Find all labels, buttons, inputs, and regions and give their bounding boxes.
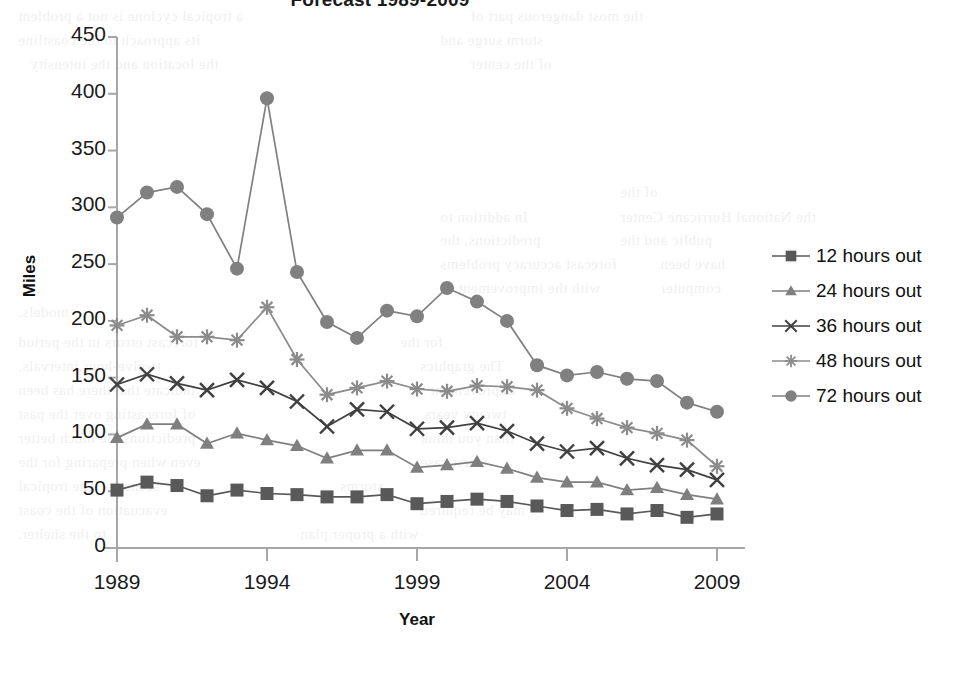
legend-label: 48 hours out (812, 350, 922, 372)
chart-legend: 12 hours out24 hours out36 hours out48 h… (770, 238, 971, 413)
y-tick-label: 350 (38, 136, 106, 160)
x-axis-title: Year (117, 610, 717, 630)
y-tick-label: 300 (38, 192, 106, 216)
y-tick-label: 50 (38, 476, 106, 500)
line-chart-svg (0, 0, 760, 648)
x-tick-label: 2009 (657, 570, 777, 594)
legend-marker-x-icon (770, 314, 812, 338)
legend-item[interactable]: 12 hours out (770, 238, 971, 273)
plot-area: Miles Year 050100150200250300350400450 1… (0, 0, 760, 648)
y-tick-label: 100 (38, 419, 106, 443)
x-tick-label: 1999 (357, 570, 477, 594)
x-tick-label: 2004 (507, 570, 627, 594)
legend-label: 36 hours out (812, 315, 922, 337)
legend-item[interactable]: 36 hours out (770, 308, 971, 343)
legend-label: 12 hours out (812, 245, 922, 267)
y-tick-label: 250 (38, 249, 106, 273)
series-12-hours-out (111, 476, 724, 524)
legend-marker-triangle-icon (770, 279, 812, 303)
y-tick-label: 200 (38, 306, 106, 330)
y-tick-label: 150 (38, 363, 106, 387)
x-tick-label: 1989 (57, 570, 177, 594)
x-tick-label: 1994 (207, 570, 327, 594)
legend-label: 72 hours out (812, 385, 922, 407)
legend-item[interactable]: 24 hours out (770, 273, 971, 308)
y-tick-label: 400 (38, 79, 106, 103)
legend-label: 24 hours out (812, 280, 922, 302)
chart-page: Forecast 1989-2009 Miles Year 0501001502… (0, 0, 971, 676)
series-72-hours-out (110, 91, 724, 418)
y-tick-label: 450 (38, 22, 106, 46)
legend-marker-star-icon (770, 349, 812, 373)
legend-marker-square-icon (770, 244, 812, 268)
legend-item[interactable]: 48 hours out (770, 343, 971, 378)
legend-marker-circle-icon (770, 384, 812, 408)
y-axis-title: Miles (20, 236, 40, 316)
y-tick-label: 0 (38, 533, 106, 557)
legend-item[interactable]: 72 hours out (770, 378, 971, 413)
